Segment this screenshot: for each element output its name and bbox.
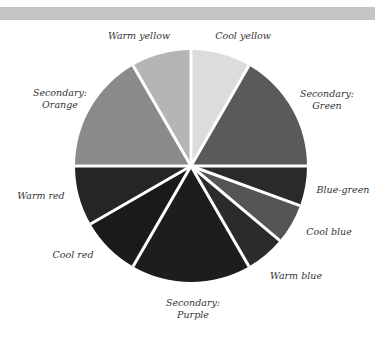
label-warm-red: Warm red [17, 190, 64, 202]
label-warm-yellow: Warm yellow [108, 30, 170, 42]
label-blue-green: Blue-green [317, 184, 370, 196]
label-cool-red: Cool red [52, 249, 93, 261]
label-cool-yellow: Cool yellow [215, 30, 271, 42]
label-secondary-orange: Secondary:Orange [33, 87, 87, 111]
pie-chart [0, 0, 388, 340]
label-cool-blue: Cool blue [306, 226, 352, 238]
label-secondary-green: Secondary:Green [300, 88, 354, 112]
label-secondary-purple: Secondary:Purple [166, 297, 220, 321]
label-warm-blue: Warm blue [270, 270, 322, 282]
